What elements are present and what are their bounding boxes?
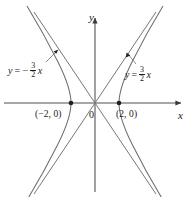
vertex-dot-right (117, 101, 122, 106)
asymptote-right-fraction: 3 2 (139, 66, 145, 83)
asymptote-left-y: y (8, 66, 12, 76)
asymptote-right-y: y (125, 70, 129, 80)
vertex-label-left: (−2, 0) (35, 110, 62, 120)
asymptote-right-numerator: 3 (139, 66, 145, 74)
plot-canvas (0, 0, 195, 197)
asymptote-left-denominator: 2 (30, 70, 36, 79)
asymptote-left-x: x (38, 66, 42, 76)
hyperbola-right-branch-upper (119, 6, 163, 103)
asymptote-left-equals: = (14, 66, 21, 76)
asymptote-right-denominator: 2 (139, 74, 145, 83)
origin-label: 0 (89, 110, 94, 120)
asymptote-left-fraction: 3 2 (30, 62, 36, 79)
hyperbola-left-branch-upper (27, 6, 71, 103)
y-axis-label: y (89, 12, 94, 23)
hyperbola-figure: y x 0 (−2, 0) (2, 0) y = − 3 2 x y = 3 2… (0, 0, 195, 197)
asymptote-label-right: y = 3 2 x (125, 66, 151, 83)
asymptote-right-x: x (147, 70, 151, 80)
asymptote-left-numerator: 3 (30, 62, 36, 70)
asymptote-label-left: y = − 3 2 x (8, 62, 42, 79)
vertex-label-right: (2, 0) (116, 110, 137, 120)
x-axis-label: x (178, 110, 183, 121)
asymptote-left-minus: − (22, 66, 29, 76)
vertex-dot-left (69, 101, 74, 106)
asymptote-right-equals: = (131, 70, 138, 80)
